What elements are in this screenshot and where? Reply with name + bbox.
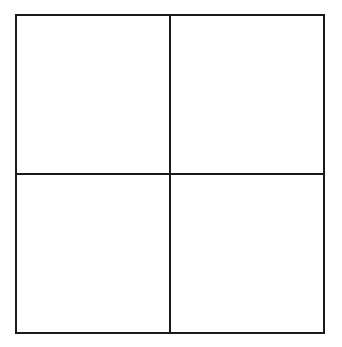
grid-cell-top-left xyxy=(17,16,171,175)
grid-cell-bottom-left xyxy=(17,175,171,332)
grid-cell-top-right xyxy=(171,16,323,175)
two-by-two-grid xyxy=(15,14,325,334)
grid-cell-bottom-right xyxy=(171,175,323,332)
